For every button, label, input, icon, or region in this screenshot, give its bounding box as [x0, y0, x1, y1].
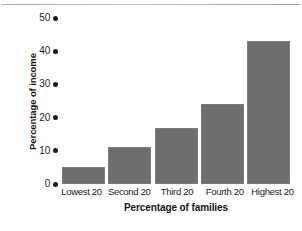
- y-axis-tick: 20: [26, 112, 58, 124]
- bar-chart: Percentage of income 50403020100 Lowest …: [0, 0, 302, 231]
- y-axis-tick-dot-icon: [53, 148, 58, 153]
- y-axis-tick-dot-icon: [53, 49, 58, 54]
- scan-line-artifact: [2, 4, 300, 5]
- x-axis-tick-label: Second 20: [106, 186, 153, 197]
- bar: [108, 147, 151, 184]
- y-axis-tick-dot-icon: [53, 82, 58, 87]
- y-axis-tick-label: 10: [39, 146, 50, 156]
- bar-series: [62, 18, 290, 184]
- x-axis-tick-label: Fourth 20: [201, 186, 248, 197]
- x-axis-tick-labels: Lowest 20Second 20Third 20Fourth 20Highe…: [58, 186, 296, 197]
- bar-slot: [247, 18, 290, 184]
- bar-slot: [155, 18, 198, 184]
- bar: [155, 128, 198, 184]
- bar-slot: [108, 18, 151, 184]
- bar-slot: [201, 18, 244, 184]
- y-axis-tick: 40: [26, 45, 58, 57]
- y-axis-tick: 0: [26, 178, 58, 190]
- y-axis-tick: 50: [26, 12, 58, 24]
- y-axis-tick-dot-icon: [53, 115, 58, 120]
- y-axis-tick-label: 40: [39, 46, 50, 56]
- y-axis-tick: 30: [26, 78, 58, 90]
- y-axis-tick-dot-icon: [53, 16, 58, 21]
- y-axis-tick-label: 50: [39, 13, 50, 23]
- plot-area: [62, 18, 290, 184]
- bar: [247, 41, 290, 184]
- bar-slot: [62, 18, 105, 184]
- x-axis-tick-label: Highest 20: [249, 186, 296, 197]
- y-axis-tick-label: 0: [45, 179, 50, 189]
- x-axis-tick-label: Third 20: [154, 186, 201, 197]
- y-axis-tick: 10: [26, 145, 58, 157]
- bar: [201, 104, 244, 184]
- y-axis-tick-label: 20: [39, 113, 50, 123]
- x-axis-title: Percentage of families: [62, 202, 290, 213]
- y-axis-tick-label: 30: [39, 79, 50, 89]
- bar: [62, 167, 105, 184]
- x-axis-tick-label: Lowest 20: [58, 186, 105, 197]
